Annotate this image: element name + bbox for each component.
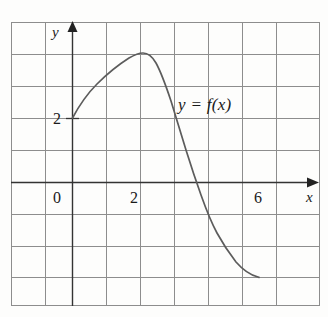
x-axis-arrowhead [307, 178, 319, 188]
function-graph-figure: y x 0 2 6 2 y = f(x) [0, 0, 328, 317]
graph-canvas [0, 0, 328, 317]
x-tick-label-0: 0 [53, 190, 61, 206]
grid-horizontal-lines [11, 23, 320, 306]
curve-equation-label: y = f(x) [178, 96, 232, 113]
y-tick-label-2: 2 [53, 111, 61, 127]
y-axis-label: y [52, 25, 59, 40]
x-axis [11, 178, 319, 188]
y-axis [68, 21, 78, 306]
x-axis-label: x [306, 190, 313, 205]
grid-vertical-lines [12, 22, 320, 306]
x-tick-label-2: 2 [130, 190, 138, 206]
x-tick-label-6: 6 [254, 190, 262, 206]
